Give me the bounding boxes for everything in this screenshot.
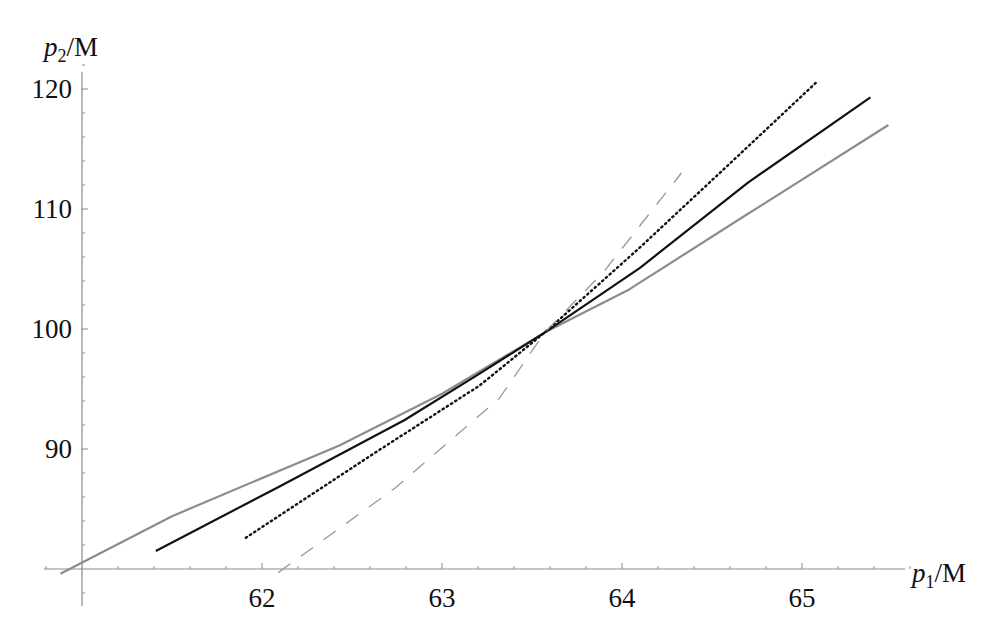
y-tick-label: 90 <box>45 434 72 464</box>
plot-series <box>60 81 888 574</box>
x-tick-label: 64 <box>609 583 637 613</box>
y-axis-label: p2/M <box>42 32 98 66</box>
y-tick-label: 100 <box>32 314 73 344</box>
x-axis-label: p1/M <box>910 558 966 592</box>
x-tick-label: 63 <box>429 583 456 613</box>
series-black-dotted <box>246 81 818 538</box>
tick-labels: 6263646590100110120 <box>32 74 816 613</box>
y-tick-label: 120 <box>32 74 73 104</box>
y-tick-label: 110 <box>33 194 73 224</box>
line-chart: 6263646590100110120 p2/M p1/M <box>0 0 1004 639</box>
x-tick-label: 62 <box>249 583 276 613</box>
x-tick-label: 65 <box>789 583 816 613</box>
axes <box>44 65 946 606</box>
series-gray-solid <box>60 125 888 574</box>
series-black-solid <box>156 97 871 551</box>
